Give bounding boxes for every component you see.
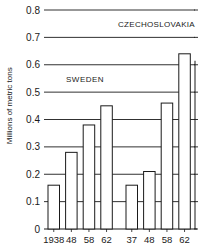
x-tick-label: 58 xyxy=(162,234,173,245)
bar-sweden-58 xyxy=(83,125,95,229)
annotation-czechoslovakia: CZECHOSLOVAKIA xyxy=(118,20,195,29)
bar-sweden-48 xyxy=(66,152,78,229)
bar-sweden-1938 xyxy=(48,185,60,229)
bar-czechoslovakia-62 xyxy=(179,54,191,229)
annotation-sweden: SWEDEN xyxy=(66,75,104,84)
bar-czechoslovakia-58 xyxy=(161,103,173,229)
x-tick-label: 62 xyxy=(179,234,190,245)
bar-czechoslovakia-37 xyxy=(126,185,138,229)
x-tick-label: 48 xyxy=(66,234,77,245)
x-tick-label: 37 xyxy=(126,234,137,245)
y-tick-label: 0.5 xyxy=(26,87,40,98)
x-tick-label: 62 xyxy=(101,234,112,245)
y-tick-label: 0 xyxy=(34,224,40,235)
x-tick-label: 1938 xyxy=(43,234,64,245)
x-tick-label: 58 xyxy=(84,234,95,245)
bar-chart: Millions of metric tons00.10.20.30.40.50… xyxy=(0,0,202,251)
y-tick-label: 0.2 xyxy=(26,169,40,180)
y-tick-label: 0.7 xyxy=(26,32,40,43)
y-tick-label: 0.6 xyxy=(26,59,40,70)
bar-sweden-62 xyxy=(101,106,113,229)
x-tick-label: 48 xyxy=(144,234,155,245)
y-tick-label: 0.4 xyxy=(26,114,40,125)
y-axis-label: Millions of metric tons xyxy=(5,67,14,144)
y-tick-label: 0.3 xyxy=(26,141,40,152)
bar-czechoslovakia-48 xyxy=(144,172,156,229)
chart-canvas: Millions of metric tons00.10.20.30.40.50… xyxy=(0,0,202,251)
y-tick-label: 0.1 xyxy=(26,196,40,207)
y-tick-label: 0.8 xyxy=(26,5,40,16)
